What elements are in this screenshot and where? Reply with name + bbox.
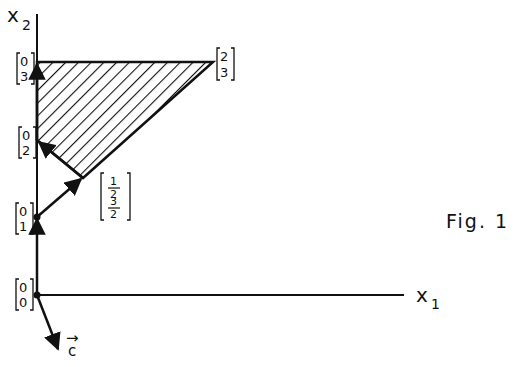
svg-text:3: 3 (110, 195, 117, 208)
svg-text:0: 0 (19, 204, 27, 219)
path-arrow-p01-to-phalf (37, 179, 81, 217)
x1-axis-label: x 1 (416, 283, 440, 312)
c-vector-arrow: → (66, 329, 79, 347)
svg-text:3: 3 (20, 69, 28, 84)
svg-text:2: 2 (220, 49, 228, 64)
svg-text:x: x (416, 283, 428, 307)
svg-text:x: x (7, 3, 19, 27)
svg-text:1: 1 (110, 175, 117, 188)
label-p01: 0 1 (16, 203, 33, 234)
x2-axis-label: x 2 (7, 3, 31, 33)
svg-text:1: 1 (19, 219, 27, 234)
label-p23: 2 3 (217, 48, 234, 80)
svg-text:0: 0 (19, 295, 27, 310)
vertex-p01-dot (34, 214, 41, 221)
svg-text:2: 2 (22, 143, 30, 158)
label-p03: 0 3 (17, 53, 34, 84)
label-phalf: 1 2 3 2 (101, 173, 130, 221)
svg-text:1: 1 (431, 296, 440, 312)
svg-text:3: 3 (220, 65, 228, 80)
svg-text:0: 0 (22, 128, 30, 143)
c-vector (37, 295, 58, 349)
svg-text:0: 0 (20, 54, 28, 69)
svg-text:2: 2 (22, 17, 31, 33)
svg-text:0: 0 (19, 280, 27, 295)
figure-caption: Fig. 1 (446, 210, 509, 232)
label-p02: 0 2 (19, 127, 36, 158)
svg-text:2: 2 (110, 208, 117, 221)
figure-canvas: c → x 2 x 1 0 0 0 1 0 2 0 3 2 3 1 (0, 0, 532, 367)
label-origin: 0 0 (16, 279, 33, 310)
